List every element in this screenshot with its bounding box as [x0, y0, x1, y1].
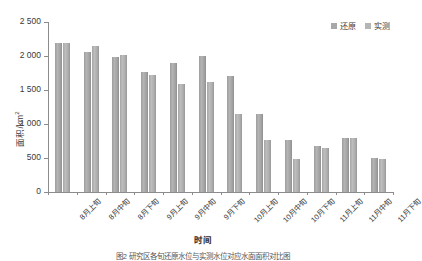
bar-group — [199, 22, 214, 192]
bar-restored[interactable] — [314, 146, 321, 192]
bar-restored[interactable] — [199, 56, 206, 192]
bar-measured[interactable] — [149, 75, 156, 192]
bar-measured[interactable] — [350, 138, 357, 192]
x-axis-tick-label: 10月下旬 — [308, 196, 337, 225]
y-axis-tick-mark — [44, 124, 48, 125]
x-axis-tick-label: 9月上旬 — [163, 196, 189, 222]
bar-restored[interactable] — [112, 57, 119, 192]
y-axis-tick-label: 1 000 — [20, 118, 41, 129]
bar-measured[interactable] — [264, 140, 271, 192]
bar-measured[interactable] — [63, 43, 70, 192]
bar-restored[interactable] — [285, 140, 292, 192]
bar-restored[interactable] — [55, 43, 62, 192]
bar-group — [371, 22, 386, 192]
y-axis-tick-label: 0 — [36, 186, 41, 197]
y-axis-tick-mark — [44, 158, 48, 159]
bar-measured[interactable] — [322, 148, 329, 192]
y-axis-tick-label: 2 500 — [20, 16, 41, 27]
bar-restored[interactable] — [342, 138, 349, 192]
x-axis-title: 时间 — [0, 233, 406, 245]
legend-item-measured[interactable]: 实测 — [365, 20, 390, 31]
x-axis-tick-label: 11月上旬 — [337, 196, 365, 224]
x-axis-tick-mark — [393, 192, 394, 195]
bar-measured[interactable] — [178, 84, 185, 192]
y-axis-tick-mark — [44, 90, 48, 91]
y-axis-tick-mark — [44, 22, 48, 23]
x-axis-tick-labels: 8月上旬8月中旬8月下旬9月上旬9月中旬9月下旬10月上旬10月中旬10月下旬1… — [48, 194, 393, 234]
bar-restored[interactable] — [256, 114, 263, 192]
legend-swatch-icon — [365, 23, 371, 29]
plot-area: 05001 0001 5002 0002 500 — [48, 22, 393, 192]
x-axis-tick-label: 11月中旬 — [365, 196, 393, 224]
bar-restored[interactable] — [84, 52, 91, 192]
y-axis-tick-label: 2 000 — [20, 50, 41, 61]
x-axis-tick-label: 9月下旬 — [220, 196, 246, 222]
y-axis-tick-label: 500 — [27, 152, 41, 163]
bar-group — [342, 22, 357, 192]
x-axis-tick-label: 8月上旬 — [77, 196, 103, 222]
bar-group — [141, 22, 156, 192]
y-axis-tick-mark — [44, 56, 48, 57]
x-axis-tick-label: 11月下旬 — [394, 196, 422, 224]
bar-restored[interactable] — [141, 72, 148, 192]
bar-restored[interactable] — [371, 158, 378, 192]
x-axis-tick-label: 10月上旬 — [250, 196, 279, 225]
bar-group — [256, 22, 271, 192]
legend-label: 还原 — [340, 20, 356, 31]
bar-measured[interactable] — [120, 55, 127, 192]
y-axis-title: 面积/km2 — [13, 111, 25, 146]
bar-measured[interactable] — [235, 114, 242, 192]
bar-measured[interactable] — [92, 46, 99, 192]
bar-group — [170, 22, 185, 192]
figure-caption: 图2 研究区各旬还原水位与实测水位对应水面面积对比图 — [0, 250, 406, 261]
x-axis-tick-label: 10月中旬 — [279, 196, 308, 225]
bar-restored[interactable] — [170, 63, 177, 192]
chart-legend: 还原实测 — [331, 20, 390, 31]
x-axis-tick-label: 8月下旬 — [134, 196, 160, 222]
bar-group — [227, 22, 242, 192]
bar-group — [84, 22, 99, 192]
legend-label: 实测 — [374, 20, 390, 31]
bar-group — [112, 22, 127, 192]
bar-group — [55, 22, 70, 192]
bar-measured[interactable] — [379, 159, 386, 192]
y-axis-tick-label: 1 500 — [20, 84, 41, 95]
x-axis-tick-label: 9月中旬 — [192, 196, 218, 222]
x-axis-tick-label: 8月中旬 — [105, 196, 131, 222]
bar-measured[interactable] — [293, 159, 300, 192]
bar-group — [314, 22, 329, 192]
legend-swatch-icon — [331, 23, 337, 29]
bar-measured[interactable] — [207, 82, 214, 192]
bar-group — [285, 22, 300, 192]
bar-restored[interactable] — [227, 76, 234, 192]
legend-item-restored[interactable]: 还原 — [331, 20, 356, 31]
